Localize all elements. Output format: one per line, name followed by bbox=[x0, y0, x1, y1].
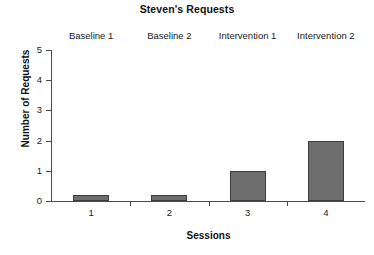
phase-label-intervention-1: Intervention 1 bbox=[209, 30, 287, 44]
chart-figure: Steven's Requests Baseline 1 Baseline 2 … bbox=[0, 0, 374, 255]
phase-label-baseline-2: Baseline 2 bbox=[130, 30, 208, 44]
x-tick-boundary-1 bbox=[130, 201, 131, 206]
x-tick-boundary-3 bbox=[287, 201, 288, 206]
x-tick-label-2: 2 bbox=[154, 207, 184, 218]
y-tick-label-0: 0 bbox=[26, 196, 42, 206]
phase-label-row: Baseline 1 Baseline 2 Intervention 1 Int… bbox=[52, 30, 365, 44]
bar-session-1 bbox=[73, 195, 109, 201]
plot-area bbox=[52, 50, 365, 201]
y-tick-0 bbox=[46, 201, 52, 202]
x-tick-label-3: 3 bbox=[233, 207, 263, 218]
phase-label-intervention-2: Intervention 2 bbox=[287, 30, 365, 44]
chart-title: Steven's Requests bbox=[0, 3, 374, 15]
x-axis-title: Sessions bbox=[52, 230, 365, 241]
bar-session-2 bbox=[151, 195, 187, 201]
x-tick-boundary-2 bbox=[209, 201, 210, 206]
x-tick-label-1: 1 bbox=[76, 207, 106, 218]
bar-session-3 bbox=[230, 171, 266, 201]
x-tick-label-4: 4 bbox=[311, 207, 341, 218]
bar-session-4 bbox=[308, 141, 344, 201]
y-axis-title: Number of Requests bbox=[20, 29, 31, 169]
phase-label-baseline-1: Baseline 1 bbox=[52, 30, 130, 44]
